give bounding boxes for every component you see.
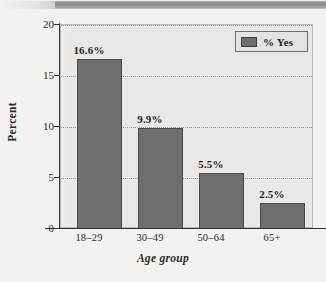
x-tick-label-65-plus: 65+ (239, 232, 305, 243)
scan-artifact-fade (0, 1, 56, 9)
y-tick-label-0: 0 (14, 222, 54, 234)
bar-value-50-64: 5.5% (178, 158, 244, 170)
x-tick-label-30-49: 30–49 (117, 232, 183, 243)
gridline-20 (61, 25, 312, 26)
y-tick-mark-5 (54, 177, 60, 178)
y-tick-label-15: 15 (14, 69, 54, 81)
bar-value-65-plus: 2.5% (239, 188, 305, 200)
x-axis-line (45, 228, 326, 229)
legend-label-pct-yes: % Yes (263, 36, 293, 48)
y-tick-mark-20 (54, 24, 60, 25)
chart-figure: 20 15 10 5 0 Percent Age group 16.6% 9.9… (0, 0, 326, 282)
y-tick-mark-10 (54, 126, 60, 127)
y-tick-mark-15 (54, 75, 60, 76)
bar-value-18-29: 16.6% (56, 44, 122, 56)
bar-50-64 (199, 173, 244, 229)
y-axis-title: Percent (6, 91, 18, 153)
bar-65-plus (260, 203, 305, 229)
x-axis-title: Age group (0, 252, 326, 264)
scan-artifact-band (55, 1, 326, 9)
legend-swatch-pct-yes (241, 37, 257, 47)
y-tick-mark-0 (54, 228, 60, 229)
x-tick-label-18-29: 18–29 (56, 232, 122, 243)
x-tick-label-50-64: 50–64 (178, 232, 244, 243)
legend: % Yes (235, 31, 308, 52)
bar-18-29 (77, 59, 122, 229)
y-tick-label-20: 20 (14, 18, 54, 30)
bar-30-49 (138, 128, 183, 229)
y-tick-label-10: 10 (14, 120, 54, 132)
y-tick-label-5: 5 (14, 171, 54, 183)
bar-value-30-49: 9.9% (117, 113, 183, 125)
